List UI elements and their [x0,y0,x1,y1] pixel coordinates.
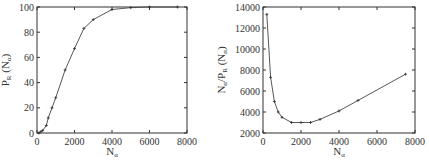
x-axis-label: Nα [106,145,118,159]
x-tick-label: 8000 [177,136,197,147]
plot-frame [37,7,187,133]
right-chart: 0200040006000800020004000600080001000012… [215,2,425,160]
plot-frame [263,7,415,133]
y-tick-label: 40 [24,77,34,88]
y-axis-label: Nα/PR (Nα) [215,46,229,94]
y-tick-label: 60 [24,52,34,63]
left-chart: 02000400060008000020406080100NαPR (Nα) [0,2,197,160]
x-tick-label: 8000 [405,136,425,147]
data-line [39,7,178,133]
y-axis-label: PR (Nα) [0,53,13,86]
x-tick-label: 0 [35,136,40,147]
data-line [267,14,406,122]
x-tick-label: 6000 [367,136,387,147]
y-tick-label: 10000 [235,44,260,55]
y-tick-label: 80 [24,27,34,38]
y-tick-label: 6000 [240,86,260,97]
y-tick-label: 4000 [240,107,260,118]
y-tick-label: 20 [24,102,34,113]
y-tick-label: 2000 [240,128,260,139]
x-tick-label: 0 [261,136,266,147]
y-tick-label: 0 [29,128,34,139]
y-tick-label: 12000 [235,23,260,34]
x-tick-label: 2000 [291,136,311,147]
y-tick-label: 8000 [240,65,260,76]
y-tick-label: 100 [19,2,34,13]
y-tick-label: 14000 [235,2,260,13]
x-tick-label: 6000 [140,136,160,147]
x-tick-label: 2000 [65,136,85,147]
x-axis-label: Nα [333,145,345,159]
figure: 02000400060008000020406080100NαPR (Nα) 0… [0,0,429,162]
